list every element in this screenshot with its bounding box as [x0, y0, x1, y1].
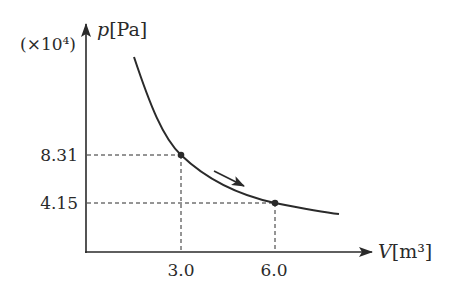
- state-point-1: [178, 152, 185, 159]
- x-tick-1: 3.0: [167, 260, 194, 280]
- x-axis-unit: [m³]: [392, 240, 432, 262]
- state-point-2: [272, 200, 279, 207]
- y-tick-1: 8.31: [40, 145, 78, 165]
- y-tick-2: 4.15: [40, 193, 78, 213]
- isotherm-curve: [134, 57, 339, 214]
- y-axis-label: p[Pa]: [97, 18, 147, 40]
- process-direction-arrow-icon: [214, 171, 244, 186]
- guide-lines: [87, 155, 275, 252]
- x-tick-2: 6.0: [260, 260, 287, 280]
- x-axis-label: V[m³]: [378, 240, 432, 262]
- y-axis-unit: [Pa]: [109, 18, 147, 40]
- pv-diagram: (×10⁴) p[Pa] 8.31 4.15 3.0 6.0 V[m³]: [0, 0, 452, 301]
- y-axis-variable: p: [97, 18, 109, 40]
- y-axis-scale-note: (×10⁴): [20, 34, 76, 54]
